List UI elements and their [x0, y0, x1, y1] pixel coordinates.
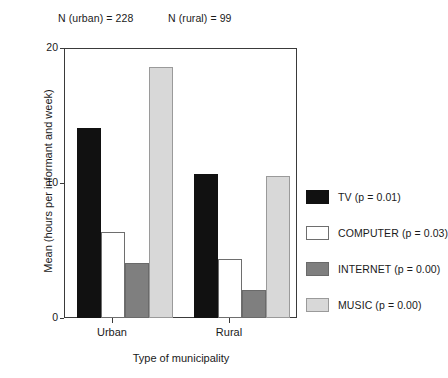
x-tick-mark-rural	[229, 318, 230, 323]
legend-label-computer: COMPUTER (p = 0.03)	[338, 227, 448, 239]
legend-item-tv: TV (p = 0.01)	[306, 190, 401, 204]
legend-swatch-internet-icon	[306, 262, 329, 276]
bars-layer	[64, 48, 297, 318]
legend-label-tv: TV (p = 0.01)	[338, 191, 401, 203]
bar-computer-urban	[101, 232, 125, 318]
y-tick-label-0: 0	[30, 311, 58, 323]
legend-swatch-tv-icon	[306, 190, 329, 204]
bar-internet-rural	[242, 290, 266, 318]
bar-music-urban	[149, 67, 173, 318]
annotation-n-urban: N (urban) = 228	[58, 12, 133, 24]
y-tick-label-20: 20	[30, 41, 58, 53]
legend-item-internet: INTERNET (p = 0.00)	[306, 262, 440, 276]
legend-item-computer: COMPUTER (p = 0.03)	[306, 226, 448, 240]
legend-label-music: MUSIC (p = 0.00)	[338, 299, 422, 311]
legend-swatch-computer-icon	[306, 226, 329, 240]
bar-computer-rural	[218, 259, 242, 318]
legend-swatch-music-icon	[306, 298, 329, 312]
x-axis-title: Type of municipality	[86, 352, 276, 364]
x-tick-label-rural: Rural	[184, 326, 274, 338]
bar-tv-rural	[194, 174, 218, 318]
y-axis-title: Mean (hours per informant and week)	[42, 56, 54, 306]
x-tick-label-urban: Urban	[67, 326, 157, 338]
bar-tv-urban	[77, 128, 101, 318]
annotation-n-rural-text: N (rural) = 99	[168, 12, 232, 24]
legend-label-internet: INTERNET (p = 0.00)	[338, 263, 440, 275]
annotation-n-rural: N (rural) = 99	[168, 12, 232, 24]
annotation-n-urban-text: N (urban) = 228	[58, 12, 133, 24]
x-tick-mark-urban	[112, 318, 113, 323]
bar-music-rural	[266, 176, 290, 318]
legend-item-music: MUSIC (p = 0.00)	[306, 298, 422, 312]
bar-internet-urban	[125, 263, 149, 318]
y-tick-mark-0	[60, 318, 64, 319]
